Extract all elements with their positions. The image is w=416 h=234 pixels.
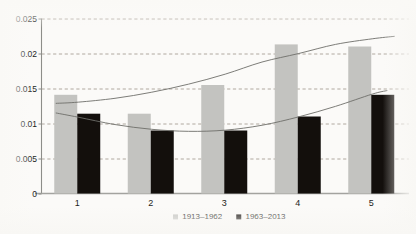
- x-tick-label: 1: [75, 198, 80, 208]
- bar: [348, 47, 371, 194]
- bar: [54, 95, 77, 194]
- legend-label: 1963–2013: [245, 212, 286, 221]
- legend-label: 1913–1962: [182, 212, 223, 221]
- trendline: [56, 36, 394, 103]
- bar: [128, 114, 151, 194]
- y-tick-label: 0.025: [16, 14, 38, 24]
- y-tick-label: 0.01: [20, 119, 37, 129]
- bar: [371, 95, 394, 194]
- x-axis-tick-labels: 12345: [75, 198, 374, 208]
- x-tick-label: 2: [148, 198, 153, 208]
- y-tick-label: 0: [32, 189, 37, 199]
- y-tick-label: 0.015: [16, 84, 38, 94]
- bar-chart-figure: 00.0050.010.0150.020.025 12345 1913–1962…: [0, 0, 416, 234]
- legend-swatch: [236, 214, 241, 219]
- trendline-layer: [56, 36, 394, 131]
- legend-swatch: [173, 214, 178, 219]
- chart-canvas: 00.0050.010.0150.020.025 12345 1913–1962…: [0, 0, 416, 234]
- bar: [224, 131, 247, 194]
- x-tick-label: 5: [369, 198, 374, 208]
- bar: [201, 85, 224, 194]
- y-axis-tick-labels: 00.0050.010.0150.020.025: [16, 14, 42, 199]
- bar: [77, 114, 100, 194]
- bars-layer: [54, 44, 394, 193]
- y-tick-label: 0.005: [16, 154, 38, 164]
- bar: [275, 44, 298, 193]
- chart-legend: 1913–19621963–2013: [173, 212, 286, 221]
- x-tick-label: 4: [295, 198, 300, 208]
- x-tick-label: 3: [222, 198, 227, 208]
- bar: [298, 117, 321, 194]
- bar: [151, 131, 174, 194]
- y-tick-label: 0.02: [20, 49, 37, 59]
